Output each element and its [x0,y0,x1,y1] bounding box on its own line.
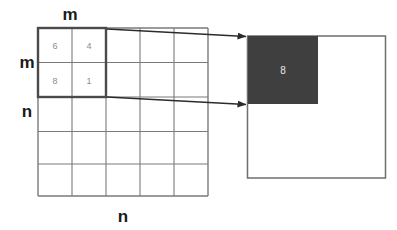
subblock-cell-1-0: 8 [52,76,57,86]
block-matrix-diagram: 6 4 8 1 m m n n 8 [0,0,397,230]
diagram-canvas: 6 4 8 1 m m n n 8 [0,0,397,230]
bottom-mapping-arrow [107,97,246,105]
result-inner-block-label: 8 [280,65,286,76]
result-matrix: 8 [248,36,386,178]
source-matrix-grid [38,28,208,196]
top-mapping-arrow [107,29,246,37]
subblock-cell-1-1: 1 [86,76,91,86]
mapping-arrows [107,29,246,105]
subblock-cell-0-1: 4 [86,41,91,51]
subblock-cell-0-0: 6 [52,41,57,51]
label-left-n: n [22,102,32,121]
label-left-m: m [19,53,34,72]
label-bottom-n: n [118,207,128,226]
label-top-m: m [62,5,77,24]
